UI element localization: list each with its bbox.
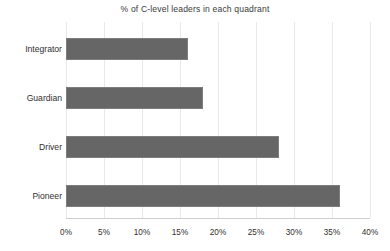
x-tick-label: 35% <box>312 228 352 237</box>
bar-row <box>66 87 370 109</box>
x-tick-label: 20% <box>198 228 238 237</box>
x-tick-label: 15% <box>160 228 200 237</box>
bar-row <box>66 38 370 60</box>
category-label: Pioneer <box>0 191 62 201</box>
bar-row <box>66 136 370 158</box>
plot-area: IntegratorGuardianDriverPioneer <box>66 22 370 218</box>
x-tick-label: 30% <box>274 228 314 237</box>
x-axis-tick-labels: 0%5%10%15%20%25%30%35%40% <box>66 228 370 244</box>
category-label: Guardian <box>0 93 62 103</box>
bar-row <box>66 185 370 207</box>
gridline <box>370 22 371 218</box>
category-label: Integrator <box>0 44 62 54</box>
x-axis-line <box>66 218 370 219</box>
category-label: Driver <box>0 142 62 152</box>
x-tick-label: 5% <box>84 228 124 237</box>
bar <box>66 38 188 60</box>
bar-chart: % of C-level leaders in each quadrant In… <box>0 0 390 251</box>
x-tick-label: 0% <box>46 228 86 237</box>
x-tick-label: 10% <box>122 228 162 237</box>
chart-title: % of C-level leaders in each quadrant <box>0 4 390 14</box>
y-axis-category-labels: IntegratorGuardianDriverPioneer <box>0 22 62 218</box>
bar <box>66 136 279 158</box>
x-tick-label: 25% <box>236 228 276 237</box>
bar <box>66 185 340 207</box>
bar <box>66 87 203 109</box>
x-tick-label: 40% <box>350 228 390 237</box>
